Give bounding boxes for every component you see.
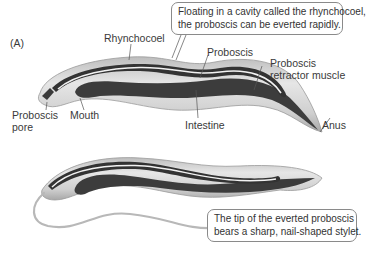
label-pore-line2: pore [12,121,58,133]
label-pore-line1: Proboscis [12,109,58,121]
label-retractor-muscle: Proboscis retractor muscle [270,57,345,81]
leader-callout-1 [172,35,181,58]
callout-stylet: The tip of the everted proboscis bears a… [207,209,357,242]
label-rhynchocoel: Rhynchocoel [104,32,165,44]
leader-callout-2 [176,35,186,60]
callout-top-line2: the proboscis can be everted rapidly. [178,19,336,32]
callout-rhynchocoel: Floating in a cavity called the rhynchoc… [171,2,343,35]
label-proboscis-pore: Proboscis pore [12,109,58,133]
label-mouth: Mouth [70,109,99,121]
label-intestine: Intestine [185,119,225,131]
callout-bottom-line1: The tip of the everted proboscis [214,213,350,226]
label-anus: Anus [322,119,346,131]
callout-bottom-line2: bears a sharp, nail-shaped stylet. [214,226,350,239]
label-retractor-line2: retractor muscle [270,69,345,81]
label-retractor-line1: Proboscis [270,57,345,69]
panel-label: (A) [10,37,24,49]
label-proboscis: Proboscis [207,46,253,58]
callout-top-line1: Floating in a cavity called the rhynchoc… [178,6,336,19]
